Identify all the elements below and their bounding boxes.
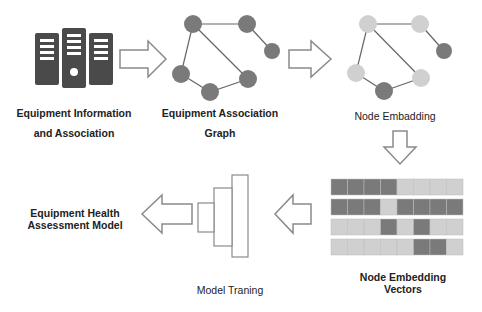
- label-health-model: Equipment Health Assessment Model: [20, 207, 130, 231]
- pipeline-diagram: [0, 0, 482, 312]
- label-model-training: Model Traning: [175, 283, 285, 297]
- embedding-vectors: [331, 179, 463, 255]
- arrow-right-icon: [289, 41, 331, 77]
- label-node-embedding: Node Embadding: [340, 109, 450, 123]
- arrow-left-icon: [142, 195, 192, 233]
- arrow-left-icon: [275, 195, 311, 233]
- label-equipment-info: Equipment Information and Association: [12, 106, 136, 140]
- neural-network-icon: [198, 175, 248, 257]
- label-association-graph: Equipment Association Graph: [160, 106, 280, 140]
- arrow-right-icon: [120, 41, 166, 77]
- embedding-graph: [356, 24, 444, 91]
- server-icon: [35, 28, 113, 88]
- label-embedding-vectors: Node Embedding Vectors: [350, 271, 456, 295]
- association-graph: [181, 24, 272, 92]
- arrow-down-icon: [384, 131, 416, 164]
